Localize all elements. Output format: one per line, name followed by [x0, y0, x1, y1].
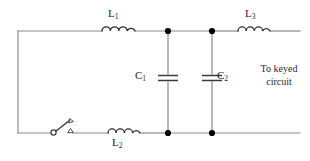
switch-blade: [56, 121, 70, 132]
switch-upper-contact-marker: [69, 119, 74, 124]
node-top-left: [165, 28, 171, 34]
inductor-l1: [102, 27, 135, 31]
switch-sw1[interactable]: [51, 119, 74, 136]
node-bottom-right: [209, 130, 215, 136]
node-top-right: [209, 28, 215, 34]
label-l2: L2: [112, 137, 122, 149]
inductor-l3: [238, 27, 270, 31]
label-c1: C1: [135, 70, 146, 82]
junction-nodes: [165, 28, 215, 136]
circuit-diagram: L1 L2 L3 C1 C2 To keyed circuit: [0, 0, 310, 161]
label-c2: C2: [217, 70, 228, 82]
capacitor-c1: [158, 76, 178, 81]
label-l1: L1: [108, 8, 118, 20]
label-l3: L3: [245, 8, 255, 20]
switch-lower-contact-marker: [68, 129, 74, 133]
inductor-l2: [108, 129, 140, 133]
node-bottom-left: [165, 130, 171, 136]
switch-pivot-terminal: [51, 130, 56, 135]
label-to-keyed-circuit: To keyed circuit: [250, 63, 308, 88]
